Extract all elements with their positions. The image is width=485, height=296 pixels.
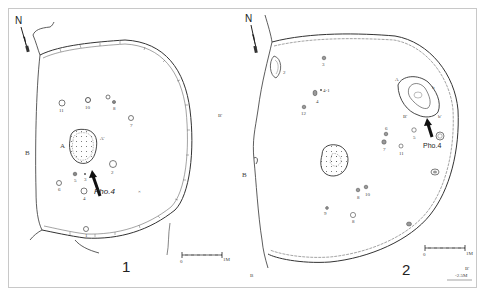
posthole: 44-1	[313, 88, 330, 104]
svg-text:8: 8	[352, 219, 355, 224]
svg-text:0: 0	[423, 252, 426, 257]
hearth-feature-a	[398, 77, 439, 117]
svg-text:8: 8	[357, 195, 360, 200]
svg-text:A: A	[60, 142, 65, 150]
svg-text:3: 3	[322, 62, 325, 67]
svg-text:N: N	[15, 15, 22, 26]
posthole: 2	[110, 161, 117, 176]
posthole: 5	[73, 172, 77, 183]
posthole	[407, 222, 412, 226]
svg-text:A': A'	[100, 136, 105, 141]
svg-text:1M: 1M	[466, 251, 474, 256]
figure-1-plan: N A A' B B' 11 10 8 7 2 5	[15, 15, 231, 275]
svg-text:B': B'	[465, 266, 469, 271]
posthole: 9	[324, 207, 328, 216]
posthole: 10	[364, 185, 370, 197]
scale-bar-figure-1: 0 1M	[180, 252, 231, 264]
svg-text:B: B	[25, 149, 30, 157]
svg-text:×: ×	[138, 189, 141, 194]
posthole: 7	[129, 116, 134, 129]
scale-bar-figure-2: 0 1M	[423, 245, 474, 257]
svg-text:10: 10	[365, 192, 371, 197]
posthole	[431, 169, 439, 175]
posthole: 6	[57, 181, 62, 193]
figure-number-1: 1	[122, 258, 130, 275]
svg-text:Pho.4: Pho.4	[94, 187, 115, 196]
north-arrow-icon: N	[245, 13, 258, 53]
posthole: 4	[81, 188, 87, 201]
north-arrow-icon: N	[15, 15, 30, 52]
posthole: 11	[59, 100, 65, 113]
posthole	[436, 132, 444, 140]
svg-text:11: 11	[399, 151, 404, 156]
svg-text:B': B'	[218, 113, 222, 118]
svg-text:B: B	[250, 273, 254, 278]
svg-text:7: 7	[130, 123, 133, 128]
svg-text:4: 4	[316, 99, 319, 104]
svg-text:7: 7	[383, 147, 386, 152]
svg-text:4-1: 4-1	[323, 88, 330, 93]
svg-text:2: 2	[111, 170, 114, 175]
excavation-plans: N A A' B B' 11 10 8 7 2 5	[0, 0, 485, 296]
posthole: 10	[85, 98, 91, 111]
svg-text:Pho.4: Pho.4	[423, 142, 441, 149]
svg-text:9: 9	[324, 211, 327, 216]
svg-text:3: 3	[84, 177, 87, 182]
svg-text:6: 6	[385, 126, 388, 131]
svg-text:10: 10	[85, 105, 91, 110]
posthole: 12	[301, 105, 307, 116]
posthole: 6	[384, 126, 388, 136]
svg-text:5: 5	[413, 135, 416, 140]
svg-text:b': b'	[438, 114, 442, 119]
svg-text:11: 11	[59, 108, 64, 113]
svg-text:8: 8	[113, 106, 116, 111]
posthole: 3	[84, 173, 87, 182]
svg-text:B': B'	[403, 114, 407, 119]
posthole: 8	[356, 188, 360, 200]
postholes-figure-1: 11 10 8 7 2 5 3 6 4 1	[57, 95, 134, 238]
svg-text:6: 6	[58, 187, 61, 192]
posthole: 8	[350, 212, 355, 224]
svg-text:-2.5M: -2.5M	[455, 273, 468, 278]
figure-number-2: 2	[402, 261, 410, 278]
elevation-note: B' -2.5M	[447, 266, 472, 280]
svg-text:N: N	[245, 13, 252, 24]
photo-direction-arrow-icon	[424, 118, 432, 137]
posthole: 5	[412, 128, 416, 140]
posthole: 1	[84, 227, 89, 239]
posthole: 3	[322, 56, 326, 67]
svg-text:B: B	[242, 171, 247, 179]
svg-text:A: A	[395, 77, 399, 82]
svg-text:1M: 1M	[223, 257, 231, 262]
posthole: 11	[399, 144, 404, 156]
pit-wall-inner	[43, 44, 187, 234]
svg-text:2: 2	[283, 70, 286, 75]
svg-text:4: 4	[83, 196, 86, 201]
svg-text:b: b	[432, 85, 435, 90]
posthole: 7	[382, 140, 386, 152]
hearth-feature	[69, 129, 96, 163]
svg-text:0: 0	[180, 259, 183, 264]
posthole: 8	[106, 95, 116, 111]
figure-2-plan: N 2 A b B' b' 3 44-1	[242, 13, 474, 280]
svg-text:12: 12	[301, 111, 307, 116]
svg-text:5: 5	[74, 178, 77, 183]
